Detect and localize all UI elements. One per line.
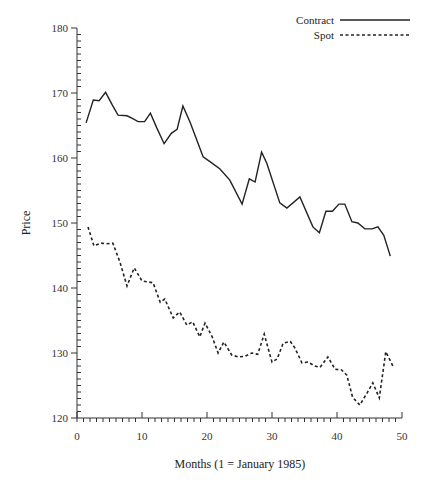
x-tick-label: 0	[74, 430, 80, 442]
y-tick-label: 140	[52, 282, 69, 294]
x-tick-label: 20	[202, 430, 214, 442]
y-tick-label: 150	[52, 217, 69, 229]
y-tick-label: 120	[52, 412, 69, 424]
x-axis-label: Months (1 = January 1985)	[175, 457, 306, 471]
y-tick-label: 170	[52, 87, 69, 99]
y-axis-label: Price	[19, 211, 33, 236]
y-tick-label: 160	[52, 152, 69, 164]
x-tick-label: 30	[267, 430, 279, 442]
y-tick-label: 180	[52, 22, 69, 34]
x-tick-label: 10	[137, 430, 149, 442]
legend-label-contract: Contract	[296, 14, 334, 26]
legend-label-spot: Spot	[314, 29, 334, 41]
series-line-contract	[86, 92, 390, 256]
axes: 12013014015016017018001020304050	[52, 22, 409, 442]
plot-series	[86, 92, 393, 405]
series-line-spot	[88, 227, 393, 405]
price-line-chart: 12013014015016017018001020304050 Contrac…	[0, 0, 430, 488]
x-tick-label: 50	[397, 430, 409, 442]
y-tick-label: 130	[52, 347, 69, 359]
legend: Contract Spot	[296, 14, 410, 41]
x-tick-label: 40	[332, 430, 344, 442]
